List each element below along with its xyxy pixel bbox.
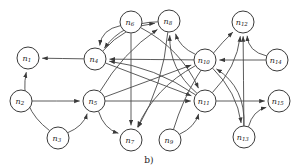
graph-node-n9[interactable]: n9 bbox=[159, 129, 181, 151]
graph-node-n10[interactable]: n10 bbox=[194, 49, 216, 71]
graph-node-n1[interactable]: n1 bbox=[17, 47, 39, 69]
graph-edge bbox=[248, 107, 266, 126]
graph-canvas: n1n2n3n4n5n6n7n8n9n10n11n12n13n14n15 b) bbox=[0, 0, 298, 168]
graph-node-n6[interactable]: n6 bbox=[120, 11, 142, 33]
graph-node-n5[interactable]: n5 bbox=[83, 90, 105, 112]
graph-edge bbox=[68, 114, 87, 133]
graph-edge bbox=[138, 32, 168, 127]
graph-edge bbox=[106, 63, 192, 96]
graph-edge bbox=[247, 36, 266, 56]
graph-node-n11[interactable]: n11 bbox=[194, 90, 216, 112]
graph-node-n13[interactable]: n13 bbox=[233, 126, 255, 148]
graph-node-n14[interactable]: n14 bbox=[266, 49, 288, 71]
edge-layer bbox=[25, 22, 267, 134]
graph-node-n3[interactable]: n3 bbox=[47, 127, 69, 149]
graph-edge bbox=[99, 111, 119, 133]
graph-figure: n1n2n3n4n5n6n7n8n9n10n11n12n13n14n15 b) bbox=[0, 0, 298, 168]
graph-edge bbox=[213, 68, 242, 123]
graph-node-n2[interactable]: n2 bbox=[10, 90, 32, 112]
graph-edge bbox=[100, 26, 121, 46]
graph-edge bbox=[100, 29, 158, 91]
graph-node-n15[interactable]: n15 bbox=[268, 90, 290, 112]
graph-node-n12[interactable]: n12 bbox=[232, 11, 254, 33]
figure-caption: b) bbox=[144, 155, 153, 165]
graph-edge bbox=[105, 65, 192, 97]
graph-edge bbox=[176, 34, 196, 55]
graph-edge bbox=[42, 58, 84, 59]
graph-node-n8[interactable]: n8 bbox=[158, 10, 180, 32]
graph-node-n4[interactable]: n4 bbox=[84, 48, 106, 70]
graph-edge bbox=[180, 114, 199, 134]
graph-node-n7[interactable]: n7 bbox=[120, 129, 142, 151]
